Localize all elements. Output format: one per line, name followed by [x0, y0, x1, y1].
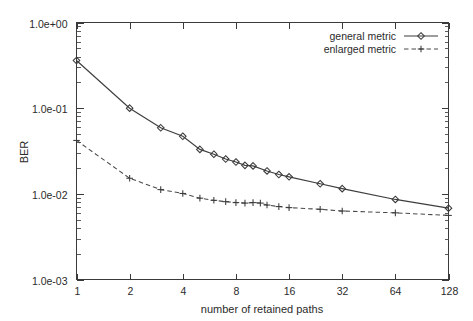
x-tick-label: 128: [441, 285, 459, 297]
chart-figure: 1.0e+001.0e-011.0e-021.0e-03 12481632641…: [0, 0, 473, 321]
legend-label: enlarged metric: [324, 43, 396, 55]
plot-frame: [77, 23, 449, 280]
x-tick-label: 16: [284, 285, 296, 297]
data-series-1: [73, 57, 452, 211]
x-tick-label: 2: [128, 285, 134, 297]
data-series-layer: [73, 57, 452, 218]
y-axis-title: BER: [18, 141, 30, 164]
chart-legend: general metricenlarged metric: [324, 30, 438, 55]
legend-entry-2: enlarged metric: [324, 43, 438, 55]
x-axis-title: number of retained paths: [201, 303, 324, 315]
y-axis-ticks: [77, 24, 449, 281]
y-tick-label: 1.0e-02: [32, 189, 68, 201]
y-tick-label: 1.0e-01: [32, 103, 68, 115]
x-tick-label: 8: [234, 285, 240, 297]
y-tick-label: 1.0e+00: [29, 18, 67, 30]
y-axis-tick-labels: 1.0e+001.0e-011.0e-021.0e-03: [29, 18, 67, 287]
series-polyline: [77, 61, 449, 209]
legend-entry-1: general metric: [329, 30, 438, 42]
x-tick-label: 4: [181, 285, 187, 297]
y-tick-label: 1.0e-03: [32, 275, 68, 287]
legend-label: general metric: [329, 30, 396, 42]
x-tick-label: 1: [75, 285, 81, 297]
ber-line-chart: 1.0e+001.0e-011.0e-021.0e-03 12481632641…: [0, 0, 473, 321]
x-tick-label: 64: [390, 285, 402, 297]
x-axis-ticks: [78, 23, 450, 280]
data-series-2: [73, 137, 452, 219]
x-tick-label: 32: [337, 285, 349, 297]
x-axis-tick-labels: 1248163264128: [75, 285, 459, 297]
